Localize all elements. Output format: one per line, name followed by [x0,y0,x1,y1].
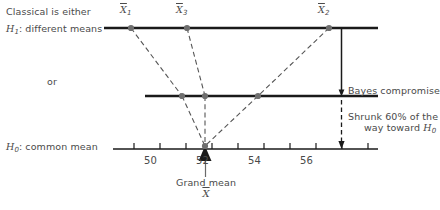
h0-row-label: H0: common mean [6,141,98,154]
axis-tick-label-56: 56 [300,155,313,166]
point-bayes-x2 [255,93,261,99]
x1-subscript: 1 [127,9,132,17]
classical-caption: Classical is either [6,6,91,17]
point-grand-mean [202,143,208,149]
x2-bar-symbol: X [318,4,325,15]
shrunk-h-symbol: H [423,122,431,133]
grand-mean-text: Grand mean [176,177,236,188]
grand-mean-label: Grand mean X [163,177,249,199]
grand-mean-symbol: X [202,188,209,199]
shrunk-annotation: Shrunk 60% of the way toward H0 [348,111,438,137]
h1-row-text: : different means [19,23,102,34]
h1-row-label: H1: different means [6,23,102,36]
or-caption: or [47,76,57,87]
point-label-x3: X3 [176,4,187,17]
bayes-compromise-label: Bayes compromise [348,85,440,96]
h0-row-text: : common mean [19,141,98,152]
shrink-connectors-upper [131,28,329,96]
x2-subscript: 2 [325,9,330,17]
connector-x3 [187,28,205,96]
x3-subscript: 3 [183,9,188,17]
x1-bar-symbol: X [120,4,127,15]
shrunk-line-2: way toward H0 [348,122,436,137]
point-h1-x1 [128,25,134,31]
point-h1-x2 [326,25,332,31]
connector-x2 [258,28,329,96]
shrunk-line-1: Shrunk 60% of the [348,111,438,122]
point-label-x2: X2 [318,4,329,17]
connector-x2-lower [205,96,258,146]
point-bayes-x3 [202,93,208,99]
point-bayes-x1 [179,93,185,99]
shrunk-h-subscript: 0 [432,127,437,135]
shrink-arrowhead [338,141,344,149]
point-label-x1: X1 [120,4,131,17]
point-h1-x3 [184,25,190,31]
shrink-connectors-lower [182,96,258,146]
axis-tick-label-50: 50 [144,155,157,166]
x3-bar-symbol: X [176,4,183,15]
axis-tick-label-54: 54 [248,155,261,166]
connector-x1-lower [182,96,205,146]
connector-x1 [131,28,182,96]
axis-tick-label-52: 52 [196,155,209,166]
h0-axis-ticks [134,143,368,149]
